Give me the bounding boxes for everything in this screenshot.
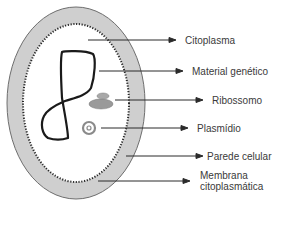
label-citoplasmatica: citoplasmática xyxy=(200,181,263,192)
ribosome-large-subunit xyxy=(89,99,113,109)
label-ribossomo: Ribossomo xyxy=(212,95,262,106)
label-parede-celular: Parede celular xyxy=(207,151,271,162)
ribosome-small-subunit xyxy=(97,93,109,99)
label-plasmidio: Plasmídio xyxy=(197,123,241,134)
label-citoplasma: Citoplasma xyxy=(185,35,235,46)
label-material-genetico: Material genético xyxy=(192,66,268,77)
label-membrana: Membrana xyxy=(200,170,248,181)
